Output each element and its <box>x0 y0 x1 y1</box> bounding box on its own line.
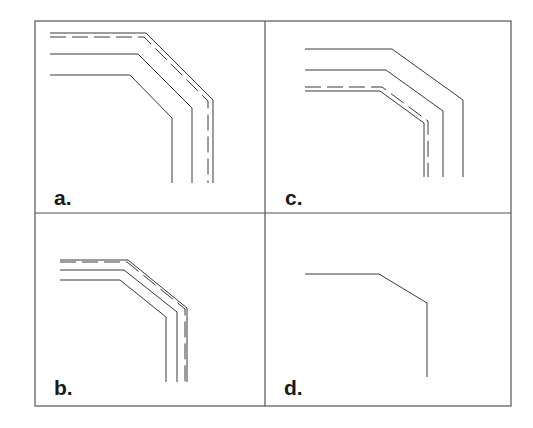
panel-d-label: d. <box>284 376 303 399</box>
diagram-figure: a. c. b. d. <box>0 0 533 428</box>
panel-c-line-solid <box>305 49 463 177</box>
panel-c: c. <box>285 49 463 209</box>
panel-d-line-solid <box>305 274 427 377</box>
panel-a-line-dashed <box>50 37 208 183</box>
panel-c-label: c. <box>285 186 303 209</box>
panel-a-lines <box>50 33 213 183</box>
panel-b-line-solid <box>60 280 166 382</box>
panel-a-label: a. <box>54 186 72 209</box>
panel-c-lines <box>305 49 463 177</box>
panel-a-line-solid <box>50 33 213 183</box>
panel-d-lines <box>305 274 427 377</box>
panel-c-line-dashed <box>305 87 428 177</box>
panel-b-label: b. <box>54 376 73 399</box>
panel-c-line-solid <box>305 91 424 177</box>
panel-b: b. <box>54 260 187 399</box>
panel-grid-frame <box>35 21 511 406</box>
panel-a-line-solid <box>50 54 192 183</box>
panel-d: d. <box>284 274 427 399</box>
panel-a: a. <box>50 33 213 209</box>
diagram-canvas: a. c. b. d. <box>0 0 533 428</box>
panel-a-line-solid <box>50 75 172 183</box>
panel-b-lines <box>60 260 187 382</box>
panel-c-line-solid <box>305 70 443 177</box>
panel-b-line-solid <box>60 260 187 382</box>
panel-b-line-solid <box>60 270 177 382</box>
